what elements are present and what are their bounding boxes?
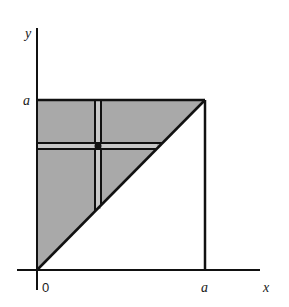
y-tick-label-a: a [23,93,30,108]
x-axis-label: x [262,280,270,295]
region-diagram: y a 0 a x [0,0,289,307]
x-tick-label-a: a [201,280,208,295]
vertical-strip [95,100,101,212]
y-axis-label: y [23,26,32,41]
intersection-point [95,143,102,150]
origin-label: 0 [42,280,49,295]
